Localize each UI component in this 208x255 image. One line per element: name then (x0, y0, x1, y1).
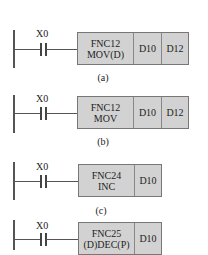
function-code: FNC25 (83, 228, 129, 239)
operand: D10 (134, 223, 161, 254)
wire-left (14, 113, 40, 114)
wire-left (14, 181, 40, 182)
mnemonic: (D)DEC(P) (83, 239, 129, 250)
wire-left (14, 239, 40, 240)
function-code: FNC12 (87, 38, 124, 49)
contact-label: X0 (36, 29, 48, 39)
mnemonic: MOV(D) (87, 49, 124, 60)
wire-left (14, 49, 40, 50)
wire-right (46, 113, 78, 114)
operand-source: D10 (133, 33, 161, 64)
wire-right (46, 181, 78, 182)
operand-source: D10 (133, 97, 161, 128)
mnemonic: MOV (91, 113, 120, 124)
operand: D10 (134, 165, 161, 196)
power-rail (13, 95, 15, 133)
wire-right (46, 239, 78, 240)
mnemonic: INC (92, 181, 121, 192)
instruction-block: FNC25 (D)DEC(P) D10 (78, 222, 162, 255)
figure-caption: (a) (93, 73, 113, 83)
power-rail (13, 220, 15, 250)
instruction-cell: FNC12 MOV (78, 97, 133, 128)
instruction-block: FNC12 MOV(D) D10 D12 (77, 32, 189, 65)
operand-destination: D12 (161, 33, 188, 64)
figure-caption: (b) (93, 137, 113, 147)
function-code: FNC12 (91, 102, 120, 113)
instruction-cell: FNC24 INC (79, 165, 134, 196)
wire-right (46, 49, 78, 50)
contact-label: X0 (36, 94, 48, 104)
instruction-block: FNC24 INC D10 (78, 164, 162, 197)
operand-destination: D12 (161, 97, 188, 128)
contact-label: X0 (36, 221, 48, 231)
contact-label: X0 (36, 162, 48, 172)
figure-caption: (c) (91, 206, 111, 216)
instruction-block: FNC12 MOV D10 D12 (77, 96, 189, 129)
instruction-cell: FNC12 MOV(D) (78, 33, 133, 64)
instruction-cell: FNC25 (D)DEC(P) (79, 223, 134, 254)
function-code: FNC24 (92, 170, 121, 181)
